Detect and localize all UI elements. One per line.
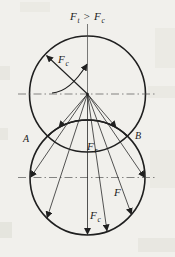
paper-smudge: [0, 128, 8, 140]
title-relation: >: [83, 10, 90, 22]
title-f1: F: [69, 10, 77, 22]
paper-smudge: [155, 28, 175, 68]
paper-smudge: [0, 222, 12, 238]
paper-smudge: [20, 2, 50, 12]
radial-label-f: F: [86, 140, 94, 152]
figure-two-circles-force-diagram: F t > F c F c A B F r F F c: [0, 0, 175, 257]
resultant-label-f: F: [89, 209, 97, 221]
centrifugal-label-f: F: [57, 53, 65, 65]
paper-smudge: [150, 150, 175, 188]
paper-smudge: [0, 66, 10, 80]
point-b-label: B: [135, 130, 141, 141]
radial-label-sub: r: [95, 146, 98, 155]
center-point: [86, 93, 89, 96]
paper-smudge: [138, 238, 175, 252]
paper-smudge: [148, 86, 175, 98]
diagram-canvas: F t > F c F c A B F r F F c: [0, 0, 175, 257]
point-a-label: A: [22, 133, 30, 144]
force-label: F: [113, 186, 121, 198]
title-f2: F: [93, 10, 101, 22]
